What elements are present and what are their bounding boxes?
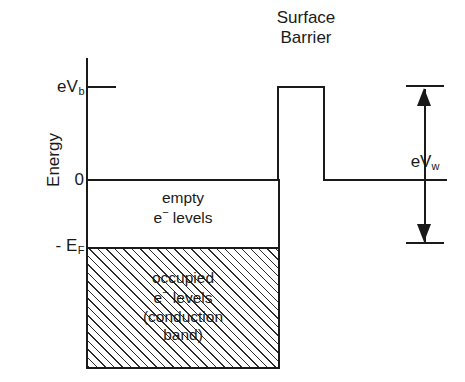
vacuum-level-line xyxy=(323,179,447,181)
work-function-top-cap xyxy=(406,85,444,87)
empty-levels-line-2-rest: levels xyxy=(169,209,213,226)
axis-tick-evb-text: eV xyxy=(57,77,78,96)
barrier-top-edge xyxy=(277,86,325,88)
axis-tick-evb-subscript: b xyxy=(78,85,84,97)
axis-tick-label-fermi: - EF xyxy=(56,236,84,256)
energy-band-diagram: Energy eVb 0 - EF empty e− levels occupi… xyxy=(0,0,465,382)
occupied-levels-line-2-rest: levels xyxy=(169,289,213,306)
axis-tick-label-evb: eVb xyxy=(57,77,84,97)
axis-tick-fermi-subscript: F xyxy=(78,244,85,256)
tick-mark-evb xyxy=(88,86,116,88)
empty-levels-charge-superscript: − xyxy=(162,206,168,218)
barrier-right-edge xyxy=(323,86,325,181)
page-header-fragment xyxy=(330,0,465,4)
occupied-levels-line-2: e− levels xyxy=(103,287,263,307)
work-function-label-subscript: w xyxy=(431,160,439,172)
occupied-levels-line-4: band) xyxy=(103,326,263,344)
barrier-left-edge xyxy=(277,86,279,181)
fermi-level-line xyxy=(86,247,280,249)
occupied-levels-charge-superscript: − xyxy=(162,286,168,298)
zero-energy-level-line xyxy=(88,179,279,181)
band-bottom-line xyxy=(86,367,280,369)
work-function-arrowhead-down-icon xyxy=(417,224,431,242)
work-function-label: eVw xyxy=(390,152,460,172)
axis-tick-label-zero: 0 xyxy=(75,170,84,190)
surface-barrier-title-line-1: Surface xyxy=(236,8,376,28)
occupied-levels-line-1: occupied xyxy=(103,269,263,287)
surface-barrier-title-line-2: Barrier xyxy=(236,28,376,48)
empty-levels-line-2: e− levels xyxy=(103,207,263,227)
occupied-levels-electron-symbol: e xyxy=(154,289,163,306)
axis-tick-fermi-text: - E xyxy=(56,236,78,255)
empty-levels-line-1: empty xyxy=(103,189,263,207)
surface-boundary-line xyxy=(278,179,280,369)
occupied-levels-line-3: (conduction xyxy=(103,308,263,326)
work-function-arrowhead-up-icon xyxy=(417,88,431,106)
occupied-levels-label: occupied e− levels (conduction band) xyxy=(103,269,263,344)
energy-axis-title: Energy xyxy=(44,100,64,220)
empty-levels-electron-symbol: e xyxy=(154,209,163,226)
surface-barrier-title: Surface Barrier xyxy=(236,8,376,48)
work-function-label-text: eV xyxy=(411,152,432,171)
empty-levels-label: empty e− levels xyxy=(103,189,263,228)
